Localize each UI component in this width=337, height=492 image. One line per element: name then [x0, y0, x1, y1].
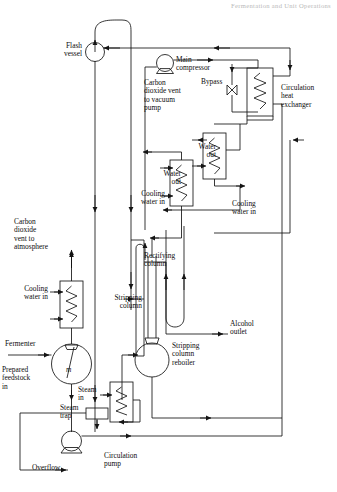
top-recycle-arc-line: [95, 20, 131, 64]
diagram-sheet: Fermentation and Unit Operations: [0, 0, 337, 492]
label-water-out-upper: Water out: [180, 143, 216, 160]
bypass-valve-symbol: [227, 85, 237, 95]
label-overflow: Overflow: [32, 464, 78, 472]
fermenter-symbol: [52, 344, 92, 384]
label-cooling-water-in-mid: Cooling water in: [117, 190, 165, 207]
label-co2-vent-vacuum: Carbon dioxide vent to vacuum pump: [144, 79, 200, 113]
cooling-water-header-right: [214, 140, 304, 233]
label-circulation-heat-exchanger: Circulation heat exchanger: [281, 84, 337, 109]
label-fermenter: Fermenter: [5, 340, 53, 348]
label-steam-in: Steam in: [78, 386, 110, 403]
circulation-heat-exchanger-symbol: [247, 68, 273, 116]
label-cooling-water-in-right: Cooling water in: [232, 200, 282, 217]
label-water-out-lower: Water out: [145, 170, 181, 187]
label-flash-vessel: Flash vessel: [40, 42, 82, 59]
label-main-compressor: Main compressor: [176, 56, 236, 73]
steam-heater-outlet: [119, 400, 140, 422]
stripping-column-symbol: [145, 256, 159, 344]
label-cooling-water-in-left: Cooling water in: [2, 285, 48, 302]
label-rectifying-column: Rectifying column: [144, 252, 192, 269]
label-alcohol-outlet: Alcohol outlet: [230, 320, 278, 337]
label-steam-trap: Steam trap: [60, 404, 94, 421]
label-co2-vent-atmosphere: Carbon dioxide vent to atmosphere: [14, 218, 66, 252]
label-bypass: Bypass: [201, 78, 235, 86]
overflow-line: [20, 413, 78, 470]
steam-heater-symbol: [110, 382, 133, 422]
label-prepared-feedstock: Prepared feedstock in: [2, 366, 50, 391]
u-trap-pipe: [166, 226, 184, 327]
fermenter-cooler-symbol: [60, 281, 83, 328]
condenser-upper-piping: [163, 124, 245, 210]
label-stripping-column-reboiler: Stripping column reboiler: [172, 342, 220, 367]
label-fermenter-mixer: m: [66, 366, 78, 374]
main-compressor-symbol: [157, 55, 174, 74]
label-circulation-pump: Circulation pump: [104, 452, 158, 469]
circulation-heat-exchanger-piping: [214, 60, 290, 400]
stripping-column-reboiler-symbol: [135, 343, 169, 377]
label-stripping-column: Stripping column: [94, 294, 142, 311]
alcohol-outlet-line: [166, 318, 228, 334]
circulation-pump-symbol: [61, 431, 82, 453]
fermenter-cooler-piping: [50, 250, 72, 344]
